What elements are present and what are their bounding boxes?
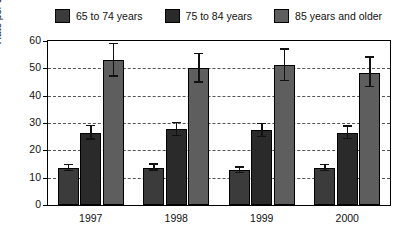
bar-1999-2 — [274, 65, 295, 205]
chart-legend: 65 to 74 years 75 to 84 years 85 years a… — [55, 9, 404, 23]
bar-chart: 65 to 74 years 75 to 84 years 85 years a… — [0, 0, 405, 237]
legend-swatch-65-74 — [55, 9, 70, 23]
bar-group-1997 — [48, 41, 134, 205]
error-bar-cap-top — [172, 122, 181, 123]
error-bar-2000-1 — [343, 125, 352, 139]
error-bar-1999-2 — [280, 48, 289, 81]
error-bar-1997-0 — [64, 164, 73, 171]
plot-inner — [48, 41, 390, 205]
plot-area — [47, 40, 391, 206]
error-bar-cap-top — [365, 56, 374, 57]
error-bar-1998-0 — [149, 163, 158, 170]
bar-2000-2 — [359, 73, 380, 205]
error-bar-cap-bottom — [86, 138, 95, 139]
bar-1997-1 — [80, 133, 101, 205]
error-bar-line — [369, 56, 370, 87]
bar-2000-1 — [337, 133, 358, 205]
bar-1997-2 — [103, 60, 124, 205]
error-bar-cap-bottom — [257, 136, 266, 137]
bar-1999-0 — [229, 170, 250, 205]
legend-item-85-plus: 85 years and older — [274, 9, 382, 23]
legend-item-75-84: 75 to 84 years — [165, 9, 253, 23]
y-tick-label-0: 0 — [7, 198, 41, 210]
x-tick-label-1998: 1998 — [136, 212, 216, 224]
bar-1998-1 — [166, 129, 187, 205]
error-bar-cap-bottom — [64, 170, 73, 171]
bar-group-2000 — [305, 41, 391, 205]
error-bar-1999-1 — [257, 123, 266, 137]
legend-label-75-84: 75 to 84 years — [186, 10, 253, 22]
error-bar-1997-2 — [109, 43, 118, 77]
error-bar-cap-top — [86, 125, 95, 126]
error-bar-cap-bottom — [194, 81, 203, 82]
y-tick-label-20: 20 — [7, 143, 41, 155]
error-bar-line — [284, 48, 285, 81]
error-bar-cap-bottom — [109, 75, 118, 76]
error-bar-cap-top — [64, 164, 73, 165]
legend-label-65-74: 65 to 74 years — [76, 10, 143, 22]
bar-2000-0 — [314, 168, 335, 205]
y-tick-label-60: 60 — [7, 34, 41, 46]
y-tick-label-30: 30 — [7, 116, 41, 128]
bar-1998-2 — [188, 68, 209, 205]
legend-label-85-plus: 85 years and older — [295, 10, 382, 22]
y-tick-label-50: 50 — [7, 61, 41, 73]
bar-1998-0 — [143, 168, 164, 205]
x-tick-label-1999: 1999 — [222, 212, 302, 224]
error-bar-cap-bottom — [320, 170, 329, 171]
error-bar-line — [198, 53, 199, 83]
error-bar-cap-top — [280, 48, 289, 49]
bar-1997-0 — [58, 168, 79, 205]
error-bar-cap-bottom — [172, 135, 181, 136]
error-bar-cap-top — [194, 53, 203, 54]
error-bar-1998-1 — [172, 122, 181, 136]
x-tick-label-1997: 1997 — [51, 212, 131, 224]
error-bar-cap-top — [343, 125, 352, 126]
error-bar-1997-1 — [86, 125, 95, 140]
error-bar-cap-top — [320, 164, 329, 165]
error-bar-cap-bottom — [280, 80, 289, 81]
bar-1999-1 — [251, 130, 272, 205]
error-bar-1998-2 — [194, 53, 203, 83]
legend-item-65-74: 65 to 74 years — [55, 9, 143, 23]
error-bar-cap-bottom — [365, 86, 374, 87]
error-bar-cap-bottom — [149, 169, 158, 170]
legend-swatch-85-plus — [274, 9, 289, 23]
error-bar-1999-0 — [235, 166, 244, 173]
error-bar-cap-top — [149, 163, 158, 164]
error-bar-cap-top — [109, 43, 118, 44]
y-axis-title: Rate per 1000 population — [0, 0, 3, 58]
error-bar-cap-bottom — [343, 138, 352, 139]
y-tick-label-40: 40 — [7, 89, 41, 101]
error-bar-cap-bottom — [235, 172, 244, 173]
error-bar-2000-2 — [365, 56, 374, 87]
y-tick-label-10: 10 — [7, 171, 41, 183]
error-bar-2000-0 — [320, 164, 329, 172]
error-bar-cap-top — [235, 166, 244, 167]
error-bar-line — [113, 43, 114, 77]
legend-swatch-75-84 — [165, 9, 180, 23]
bar-group-1999 — [219, 41, 305, 205]
x-tick-label-2000: 2000 — [307, 212, 387, 224]
bar-group-1998 — [134, 41, 220, 205]
error-bar-cap-top — [257, 123, 266, 124]
